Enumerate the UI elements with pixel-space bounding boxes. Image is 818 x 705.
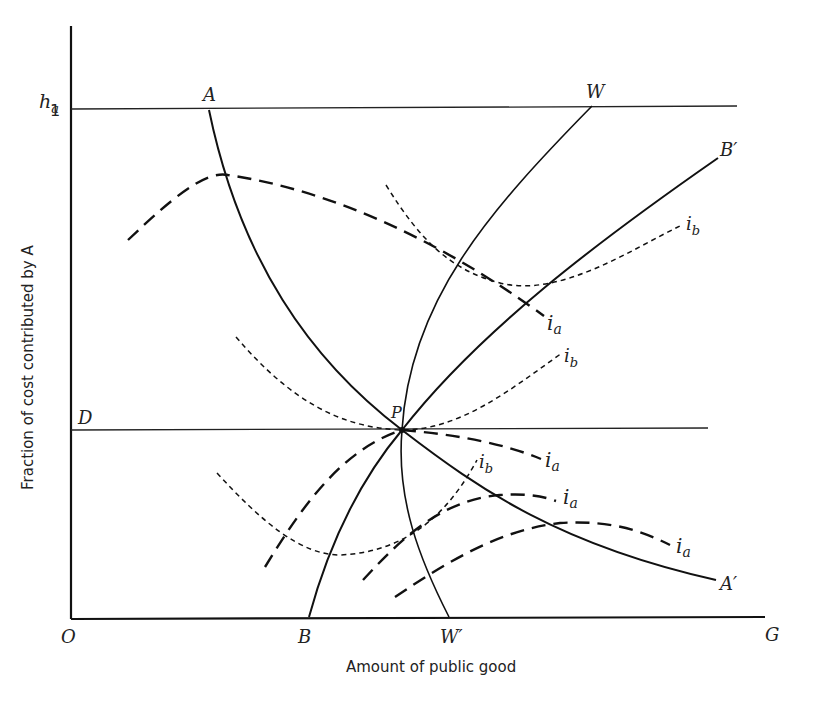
label-ia-3: ia	[563, 485, 578, 511]
indifference-ib-low	[217, 460, 477, 555]
label-origin: O	[61, 626, 76, 647]
label-ib-3: ib	[479, 451, 493, 476]
y-tick-one: 1	[50, 101, 60, 120]
label-ia-4: ia	[676, 534, 691, 560]
label-B-prime: B′	[719, 139, 737, 160]
x-axis	[71, 617, 765, 619]
label-W: W	[586, 81, 606, 102]
curve-A-A-prime	[209, 110, 716, 580]
label-D: D	[77, 407, 93, 428]
label-B: B	[297, 626, 311, 647]
label-ia-1: ia	[547, 311, 562, 337]
h-line-one	[71, 106, 737, 109]
x-axis-label: Amount of public good	[346, 658, 516, 676]
label-ib-2: ib	[564, 345, 578, 370]
label-P: P	[390, 403, 402, 422]
label-A-prime: A′	[718, 573, 737, 594]
indifference-ia-top	[128, 174, 544, 316]
public-good-diagram: ha 1 Fraction of cost contributed by A A…	[0, 0, 818, 705]
label-A: A	[201, 84, 216, 105]
label-W-prime: W′	[440, 626, 463, 647]
label-ia-2: ia	[545, 448, 560, 474]
label-ib-1: ib	[686, 213, 700, 238]
label-G: G	[765, 624, 779, 645]
y-axis-label: Fraction of cost contributed by A	[19, 245, 37, 490]
point-P-marker	[399, 427, 405, 433]
indifference-ia-low	[395, 522, 670, 597]
indifference-ib-top	[386, 185, 682, 286]
indifference-ia-middle	[363, 494, 556, 580]
indifference-ia-p-right	[402, 430, 541, 459]
